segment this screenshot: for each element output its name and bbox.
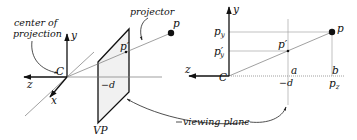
center-of-projection-pointer: [32, 41, 58, 73]
label-minus-d: −d: [101, 79, 115, 90]
label-projector: projector: [130, 6, 176, 17]
perspective-projection-figure: center of projection projector y C z x p…: [0, 0, 357, 140]
label-point-p-right: p: [337, 22, 344, 34]
label-y-axis: y: [70, 29, 78, 41]
label-projection: projection: [13, 28, 62, 39]
projector-pointer: [141, 18, 148, 40]
point-p-prime-right: [287, 50, 290, 53]
label-origin-c: C: [56, 65, 64, 77]
label-p-y: py: [214, 25, 226, 39]
point-p-right: [329, 29, 335, 35]
label-y-axis-right: y: [232, 3, 240, 15]
label-viewing-plane: viewing plane: [183, 116, 250, 127]
viewing-plane-pointer-right: [250, 107, 286, 122]
label-x-axis: x: [51, 94, 57, 106]
label-point-p: p: [173, 17, 180, 29]
label-z-axis: z: [26, 78, 33, 90]
label-center-of: center of: [14, 17, 59, 28]
label-origin-c-right: C: [219, 71, 227, 83]
x-axis-back: [67, 52, 94, 77]
label-point-p-prime: p′: [120, 40, 130, 52]
right-panel: y z C py p′y p′ p a b −d pz viewing plan…: [176, 3, 345, 127]
figure-canvas: center of projection projector y C z x p…: [0, 0, 357, 140]
label-a: a: [291, 64, 297, 76]
label-vp: VP: [93, 124, 109, 136]
point-p: [168, 30, 174, 36]
label-p-prime-y: p′y: [214, 45, 225, 59]
label-minus-d-right: −d: [279, 77, 293, 88]
label-b: b: [332, 64, 339, 76]
label-p-z: pz: [329, 77, 340, 91]
label-point-p-prime-right: p′: [278, 38, 288, 50]
label-z-axis-right: z: [184, 63, 191, 75]
